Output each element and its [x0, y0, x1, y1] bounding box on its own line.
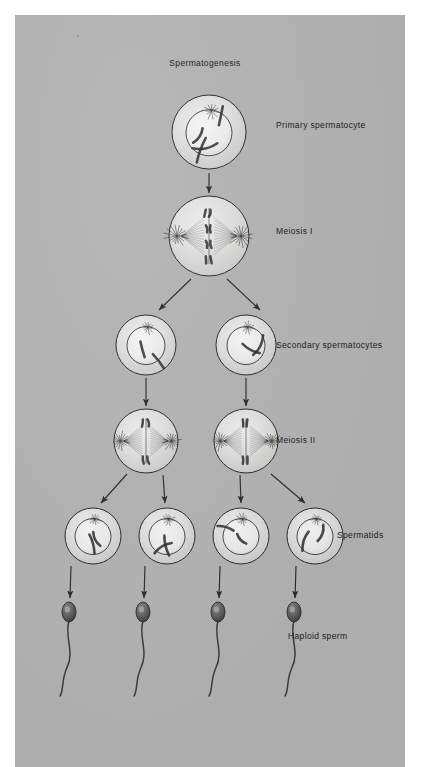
chromosome [206, 225, 208, 232]
label-spermatids: Spermatids [337, 531, 384, 540]
arrow-meiosis-ii-left-to-spermatid-2 [163, 475, 165, 503]
sperm-head [136, 602, 150, 622]
sperm-tail [60, 621, 70, 696]
label-primary-spermatocyte: Primary spermatocyte [276, 121, 366, 130]
arrow-spermatid-1-to-sperm [70, 566, 71, 598]
label-haploid-sperm: Haploid sperm [288, 632, 347, 641]
arrow-spermatid-3-to-sperm [219, 566, 220, 598]
sperm-head-highlight [214, 606, 219, 612]
figure-page: Spermatogenesis Primary spermatocyte Mei… [0, 0, 434, 767]
stage-haploid-sperm [60, 602, 301, 696]
cells-layer [60, 95, 343, 696]
chromosome [204, 210, 206, 217]
cell-meiosis-ii-2 [213, 409, 279, 473]
arrow-meiosis-ii-right-to-spermatid-4 [271, 474, 305, 503]
stage-primary-spermatocyte [172, 95, 246, 169]
label-secondary-spermatocytes: Secondary spermatocytes [276, 341, 382, 350]
stage-meiosis-i [164, 196, 253, 276]
centriole-dot [147, 327, 149, 329]
centriole-dot [270, 440, 272, 442]
chromosome [142, 419, 143, 426]
sperm-tail [134, 621, 144, 696]
centriole-dot [168, 519, 170, 521]
cell-haploid-sperm-3 [209, 602, 225, 696]
centriole-dot [170, 440, 172, 442]
cell-secondary-spermatocytes-1 [116, 315, 176, 375]
cell-haploid-sperm-1 [60, 602, 76, 696]
arrow-meiosis-ii-left-to-spermatid-1 [101, 474, 127, 503]
chromosome [210, 241, 211, 248]
sperm-head [211, 602, 225, 622]
figure-title: Spermatogenesis [169, 59, 240, 68]
sperm-head-highlight [290, 606, 295, 612]
arrow-spermatid-2-to-sperm [144, 566, 145, 598]
centriole-dot [316, 519, 318, 521]
chromosome [210, 225, 211, 232]
arrow-meiosis-ii-right-to-spermatid-3 [240, 475, 241, 503]
sperm-head-highlight [65, 606, 70, 612]
chromosome [210, 256, 211, 263]
cell-secondary-spermatocytes-2 [216, 315, 276, 375]
centriole-dot [239, 234, 242, 237]
sperm-head [62, 602, 76, 622]
cell-spermatids-4 [287, 508, 343, 564]
chromosome [143, 457, 144, 464]
arrow-meiosis-i-to-secondary-left [159, 279, 191, 310]
stage-spermatids [65, 508, 343, 564]
sperm-head [287, 602, 301, 622]
chromosome [206, 241, 208, 248]
centriole-dot [119, 440, 121, 442]
cell-spermatids-2 [139, 508, 195, 564]
stage-meiosis-ii [113, 409, 279, 473]
cell-primary-spermatocyte-1 [172, 95, 246, 169]
chromosome [243, 457, 244, 464]
chromosome [247, 419, 248, 426]
cell-meiosis-ii-1 [113, 409, 182, 473]
arrow-meiosis-i-to-secondary-right [227, 279, 260, 310]
sperm-head-highlight [139, 606, 144, 612]
centriole-dot [94, 519, 96, 521]
centriole-dot [219, 440, 221, 442]
centriole-dot [175, 234, 178, 237]
centriole-dot [242, 519, 244, 521]
paper-speck [77, 35, 79, 37]
cell-spermatids-3 [213, 508, 269, 564]
stage-secondary-spermatocytes [116, 315, 276, 375]
centriole-dot [247, 327, 249, 329]
cell-haploid-sperm-2 [134, 602, 150, 696]
arrow-spermatid-4-to-sperm [295, 566, 296, 598]
label-meiosis-ii: Meiosis II [276, 436, 315, 445]
sperm-tail [209, 621, 219, 696]
diagram-panel: Spermatogenesis Primary spermatocyte Mei… [15, 15, 405, 767]
label-meiosis-i: Meiosis I [276, 227, 313, 236]
cell-haploid-sperm-4 [285, 602, 301, 696]
centriole-dot [210, 110, 212, 112]
cell-meiosis-i-1 [164, 196, 253, 276]
cell-spermatids-1 [65, 508, 121, 564]
